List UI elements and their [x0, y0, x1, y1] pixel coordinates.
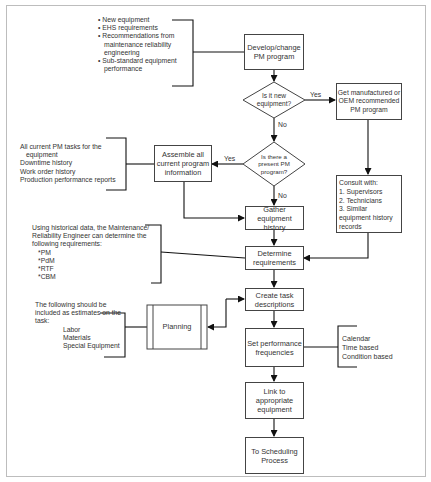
trigger-item: • Recommendations from maintenance relia…	[98, 32, 190, 57]
consult-item: 3. Similar equipment history records	[339, 205, 399, 231]
trigger-item: • New equipment	[98, 16, 190, 24]
requirement-item: *PM	[32, 249, 158, 257]
decision-label: Is there a present PM program?	[252, 153, 296, 176]
node-gather-history: Gather equipment history	[245, 206, 304, 230]
node-label: Determine requirements	[246, 249, 303, 267]
node-label: Get manufactured or OEM recommended PM p…	[337, 89, 401, 114]
node-consult-with: Consult with: 1. Supervisors 2. Technici…	[336, 175, 402, 233]
consult-title: Consult with:	[339, 179, 399, 188]
requirement-item: *PdM	[32, 257, 158, 265]
node-label: Set performance frequencies	[246, 339, 303, 357]
node-set-frequencies: Set performance frequencies	[245, 328, 304, 367]
node-label: Link to appropriate equipment	[246, 387, 303, 414]
edge-label-no: No	[278, 192, 287, 199]
frequency-item: Time based	[342, 343, 422, 352]
decision-present-pm: Is there a present PM program?	[252, 151, 296, 177]
node-get-oem-program: Get manufactured or OEM recommended PM p…	[336, 83, 402, 120]
note-line: equipment	[20, 151, 130, 159]
note-current-info: All current PM tasks for the equipment D…	[20, 143, 130, 184]
trigger-item: • EHS requirements	[98, 24, 190, 32]
frequency-item: Calendar	[342, 334, 422, 343]
node-label: Create task descriptions	[246, 291, 303, 309]
note-frequencies: Calendar Time based Condition based	[342, 334, 422, 361]
consult-item: 2. Technicians	[339, 197, 399, 206]
note-line: The following should be included as esti…	[35, 301, 127, 326]
requirement-item: *CBM	[32, 273, 158, 281]
note-line: Using historical data, the Maintenance/ …	[32, 224, 158, 249]
node-to-scheduling: To Scheduling Process	[245, 437, 304, 474]
edge-label-yes: Yes	[310, 91, 321, 98]
node-label: Gather equipment history	[246, 205, 303, 232]
node-assemble-info: Assemble all current program information	[154, 145, 212, 182]
note-line: Production performance reports	[20, 176, 130, 184]
estimate-item: Materials	[35, 334, 127, 342]
node-label: To Scheduling Process	[246, 447, 303, 465]
node-link-equipment: Link to appropriate equipment	[245, 382, 304, 419]
node-label: Develop/change PM program	[245, 43, 303, 61]
consult-item: 1. Supervisors	[339, 188, 399, 197]
note-triggers: • New equipment • EHS requirements • Rec…	[98, 16, 190, 73]
requirement-item: *RTF	[32, 265, 158, 273]
node-label: Planning	[163, 323, 192, 331]
frequency-item: Condition based	[342, 352, 422, 361]
estimate-item: Special Equipment	[35, 342, 127, 350]
node-determine-requirements: Determine requirements	[245, 246, 304, 270]
node-label: Assemble all current program information	[155, 150, 211, 177]
decision-new-equipment: Is it new equipment?	[248, 90, 300, 110]
decision-label: Is it new equipment?	[248, 92, 300, 108]
note-line: All current PM tasks for the	[20, 143, 130, 151]
note-estimates: The following should be included as esti…	[35, 301, 127, 350]
node-develop-pm-program: Develop/change PM program	[244, 34, 304, 70]
edge-label-yes: Yes	[224, 155, 235, 162]
note-line: Downtime history	[20, 159, 130, 167]
note-historical: Using historical data, the Maintenance/ …	[32, 224, 158, 281]
node-planning: Planning	[153, 305, 201, 349]
node-create-task-descriptions: Create task descriptions	[245, 288, 304, 311]
edge-label-no: No	[278, 121, 287, 128]
note-line: Work order history	[20, 168, 130, 176]
trigger-item: • Sub-standard equipment performance	[98, 57, 190, 73]
estimate-item: Labor	[35, 326, 127, 334]
